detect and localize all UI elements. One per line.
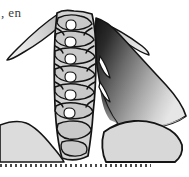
figure-page: , en xyxy=(0,0,189,177)
vertebral-column-shape xyxy=(54,10,96,159)
caption-text-fragment: , en xyxy=(1,6,21,20)
anatomical-figure xyxy=(0,0,189,177)
dotted-rule-divider xyxy=(0,164,151,167)
